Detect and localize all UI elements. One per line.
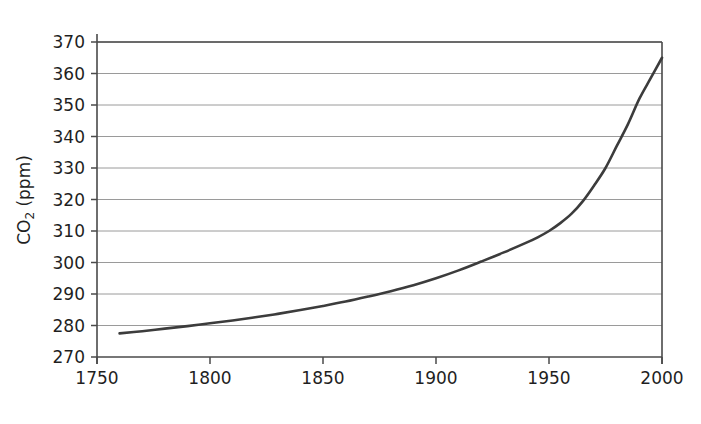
co2-line-chart: 270280290300310320330340350360370 175018… <box>0 0 701 424</box>
y-tick-label-270: 270 <box>53 347 85 367</box>
y-axis-ticks: 270280290300310320330340350360370 <box>53 32 97 367</box>
grid-lines <box>97 42 662 326</box>
x-tick-label-1850: 1850 <box>301 368 344 388</box>
x-tick-label-1950: 1950 <box>527 368 570 388</box>
y-tick-label-320: 320 <box>53 190 85 210</box>
chart-figure: 270280290300310320330340350360370 175018… <box>0 0 701 424</box>
y-tick-label-350: 350 <box>53 95 85 115</box>
y-axis-title: CO2 (ppm) <box>14 155 37 245</box>
y-tick-label-280: 280 <box>53 316 85 336</box>
x-tick-label-1750: 1750 <box>75 368 118 388</box>
y-tick-label-340: 340 <box>53 127 85 147</box>
x-tick-label-1900: 1900 <box>414 368 457 388</box>
y-tick-label-300: 300 <box>53 253 85 273</box>
x-tick-label-2000: 2000 <box>640 368 683 388</box>
x-axis-ticks: 175018001850190019502000 <box>75 357 683 388</box>
y-tick-label-360: 360 <box>53 64 85 84</box>
svg-text:CO2 (ppm): CO2 (ppm) <box>14 155 37 245</box>
y-tick-label-290: 290 <box>53 284 85 304</box>
y-tick-label-310: 310 <box>53 221 85 241</box>
co2-series-line <box>120 58 662 334</box>
x-tick-label-1800: 1800 <box>188 368 231 388</box>
y-tick-label-330: 330 <box>53 158 85 178</box>
y-tick-label-370: 370 <box>53 32 85 52</box>
